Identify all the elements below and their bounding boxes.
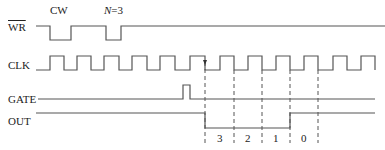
count-label: 3 [217,133,223,144]
count-label: 0 [301,133,307,144]
timing-diagram: CW N=3 WR CLK GATE OUT 3 2 1 0 [0,0,385,150]
signal-label-clk: CLK [8,60,30,71]
signal-label-wr: WR [8,22,26,33]
arrow-down-icon [203,60,207,65]
gate-waveform [38,85,375,99]
signal-label-gate: GATE [8,94,36,105]
waveforms [0,0,385,150]
cw-label: CW [50,5,68,16]
count-label: 1 [273,133,279,144]
count-label: 2 [245,133,251,144]
signal-label-out: OUT [8,116,31,127]
n-label: N=3 [104,5,123,16]
wr-waveform [36,26,385,40]
